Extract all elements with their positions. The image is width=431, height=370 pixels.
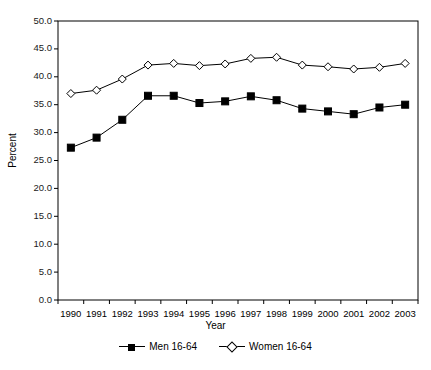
data-point-marker [93,134,100,141]
y-tick-label: 35.0 [34,98,53,109]
x-tick-label: 1994 [163,308,184,319]
data-point-marker [247,93,254,100]
y-tick-label: 25.0 [34,154,53,165]
y-tick-label: 30.0 [34,126,53,137]
plot-frame [58,21,418,300]
data-point-marker [196,100,203,107]
data-point-marker [376,104,383,111]
x-tick-label: 1995 [189,308,210,319]
legend-label: Men 16-64 [149,341,197,352]
y-tick-label: 5.0 [39,266,52,277]
x-axis-label: Year [0,320,431,331]
data-point-marker [299,105,306,112]
legend-square-marker-icon [119,342,145,352]
data-point-marker [273,97,280,104]
data-point-marker [222,98,229,105]
x-tick-label: 2003 [395,308,416,319]
x-tick-label: 1993 [137,308,158,319]
data-point-marker [67,144,74,151]
data-point-marker [170,92,177,99]
x-tick-label: 1997 [240,308,261,319]
x-tick-label: 1990 [60,308,81,319]
x-tick-label: 1991 [86,308,107,319]
data-point-marker [145,92,152,99]
chart-container: Percent 0.05.010.015.020.025.030.035.040… [0,0,431,370]
y-tick-label: 0.0 [39,294,52,305]
legend-item[interactable]: Men 16-64 [119,341,197,352]
y-tick-label: 45.0 [34,42,53,53]
data-point-marker [119,116,126,123]
data-point-marker [402,101,409,108]
legend-symbol [128,344,135,351]
x-tick-label: 1998 [266,308,287,319]
x-tick-label: 2001 [343,308,364,319]
legend-item[interactable]: Women 16-64 [219,341,312,352]
chart-legend: Men 16-64Women 16-64 [0,341,431,352]
x-tick-label: 1999 [292,308,313,319]
x-tick-label: 1996 [215,308,236,319]
x-tick-label: 2000 [317,308,338,319]
y-tick-label: 40.0 [34,70,53,81]
y-tick-label: 15.0 [34,210,53,221]
legend-label: Women 16-64 [249,341,312,352]
y-tick-label: 50.0 [34,15,53,26]
legend-symbol [226,341,237,352]
x-tick-label: 2002 [369,308,390,319]
legend-diamond-marker-icon [219,342,245,352]
y-tick-label: 10.0 [34,238,53,249]
data-point-marker [350,111,357,118]
data-point-marker [325,108,332,115]
y-tick-label: 20.0 [34,182,53,193]
x-tick-label: 1992 [112,308,133,319]
